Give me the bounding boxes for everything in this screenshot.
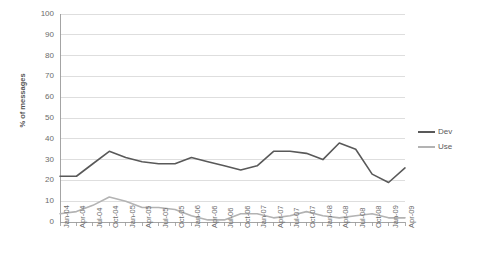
legend-item-use[interactable]: Use [418, 137, 478, 152]
y-tick-label: 10 [28, 197, 54, 205]
x-tick-label: Oct-07 [309, 205, 317, 228]
x-tick-label: Jul-08 [359, 208, 367, 228]
x-tick-label: Jul-05 [162, 208, 170, 228]
y-tick-label: 50 [28, 114, 54, 122]
x-tick-label: Apr-06 [211, 205, 219, 228]
plot-svg [60, 14, 405, 228]
legend-swatch-dev [418, 131, 435, 133]
x-tick-label: Apr-08 [342, 205, 350, 228]
legend-label: Use [438, 142, 452, 151]
y-tick-label: 0 [28, 218, 54, 226]
legend-item-dev[interactable]: Dev [418, 122, 478, 137]
legend-swatch-use [418, 146, 435, 148]
x-tick-label: Jan-06 [194, 205, 202, 228]
x-tick-label: Oct-05 [178, 205, 186, 228]
x-tick-label: Oct-06 [244, 205, 252, 228]
chart-legend: DevUse [418, 122, 478, 152]
y-tick-label: 90 [28, 31, 54, 39]
x-tick-label: Jan-05 [129, 205, 137, 228]
x-tick-label: Apr-09 [408, 205, 416, 228]
x-tick-label: Jul-07 [293, 208, 301, 228]
x-tick-label: Jan-04 [63, 205, 71, 228]
x-tick-label: Apr-05 [145, 205, 153, 228]
x-tick-label: Oct-04 [112, 205, 120, 228]
y-tick-label: 30 [28, 156, 54, 164]
y-tick-label: 60 [28, 93, 54, 101]
x-tick-label: Jan-08 [326, 205, 334, 228]
legend-label: Dev [438, 127, 452, 136]
x-tick-label: Apr-07 [277, 205, 285, 228]
plot-area [60, 14, 405, 222]
y-tick-label: 40 [28, 135, 54, 143]
x-axis-tick-labels: Jan-04Apr-04Jul-04Oct-04Jan-05Apr-05Jul-… [60, 222, 405, 277]
x-tick-label: Jan-09 [392, 205, 400, 228]
x-tick-label: Jan-07 [260, 205, 268, 228]
y-tick-label: 80 [28, 52, 54, 60]
y-tick-label: 20 [28, 176, 54, 184]
line-chart: % of messages 1009080706050403020100 Jan… [0, 0, 478, 277]
x-tick-label: Apr-04 [79, 205, 87, 228]
x-tick-label: Jul-04 [96, 208, 104, 228]
y-axis-tick-labels: 1009080706050403020100 [28, 0, 54, 277]
x-tick-label: Jul-06 [227, 208, 235, 228]
series-line-dev [60, 143, 405, 183]
y-tick-label: 100 [28, 10, 54, 18]
y-axis-title: % of messages [18, 61, 27, 141]
x-tick-label: Oct-08 [375, 205, 383, 228]
y-tick-label: 70 [28, 72, 54, 80]
